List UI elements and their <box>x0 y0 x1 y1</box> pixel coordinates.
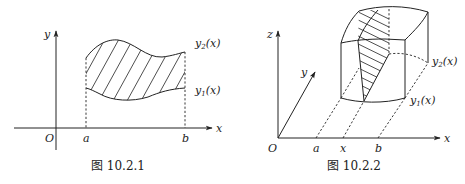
figure-10-2-1: y x O a b y2(x) y1(x) 图 10.2.1 <box>14 28 223 173</box>
caption-fig-10-2-1: 图 10.2.1 <box>91 159 145 173</box>
y2-label: y2(x) <box>194 37 220 51</box>
dashed-top-y2-curve <box>389 53 428 63</box>
tick-x-label-3d: x <box>340 142 347 155</box>
curve-y1 <box>86 88 185 100</box>
origin-label: O <box>45 132 54 145</box>
dashed-line-x <box>343 101 364 138</box>
tick-a-label: a <box>83 132 90 145</box>
curve-y2 <box>86 40 185 58</box>
x-axis-label-3d: x <box>444 132 451 145</box>
solid-body <box>341 7 428 103</box>
y-axis-label-3d: y <box>300 66 308 79</box>
figure-10-2-2: z y x O a x b y2(x) y1(x) 图 10.2.2 <box>266 0 457 173</box>
y1-label: y1(x) <box>194 84 220 98</box>
dashed-base-left <box>341 68 359 98</box>
dashed-line-a <box>316 98 341 138</box>
y1-label-3d: y1(x) <box>409 94 435 108</box>
tick-b-label-3d: b <box>375 142 382 155</box>
tick-a-label-3d: a <box>313 142 320 155</box>
z-axis-label: z <box>266 28 273 41</box>
dashed-line-b <box>378 98 405 138</box>
y2-label-3d: y2(x) <box>431 55 457 69</box>
x-axis-label: x <box>216 122 223 135</box>
y-axis-label: y <box>43 28 51 41</box>
figure-canvas: y x O a b y2(x) y1(x) 图 10.2.1 <box>0 0 465 184</box>
caption-fig-10-2-2: 图 10.2.2 <box>327 159 381 173</box>
origin-label-3d: O <box>268 142 277 155</box>
dashed-base-right <box>405 63 428 98</box>
y-axis-3d <box>278 72 315 138</box>
tick-b-label: b <box>182 132 189 145</box>
